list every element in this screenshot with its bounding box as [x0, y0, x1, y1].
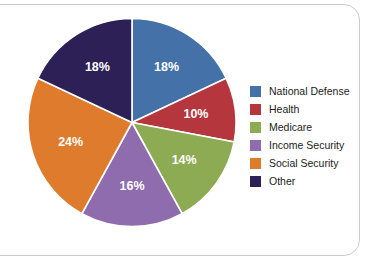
- legend-item[interactable]: Health: [250, 100, 375, 118]
- pie-slice-value-label: 14%: [172, 153, 197, 167]
- pie-graphic: 18%10%14%16%24%18%: [28, 18, 236, 227]
- legend-item[interactable]: Medicare: [250, 118, 375, 136]
- pie-slice-value-label: 18%: [154, 60, 179, 74]
- legend-item-label: Income Security: [269, 140, 344, 151]
- legend-item-label: Health: [269, 104, 299, 115]
- pie-svg: 18%10%14%16%24%18%: [28, 18, 236, 227]
- pie-slice-group: [28, 19, 236, 227]
- legend-item-label: Other: [269, 176, 295, 187]
- legend: National DefenseHealthMedicareIncome Sec…: [250, 82, 375, 190]
- legend-color-swatch: [250, 104, 261, 115]
- legend-color-swatch: [250, 122, 261, 133]
- pie-slice-value-label: 10%: [183, 107, 208, 121]
- legend-item[interactable]: Social Security: [250, 154, 375, 172]
- pie-slice-value-label: 18%: [85, 60, 110, 74]
- legend-item-label: National Defense: [269, 86, 350, 97]
- legend-color-swatch: [250, 158, 261, 169]
- legend-item-label: Social Security: [269, 158, 338, 169]
- legend-color-swatch: [250, 176, 261, 187]
- legend-item[interactable]: National Defense: [250, 82, 375, 100]
- pie-slice-value-label: 24%: [58, 135, 83, 149]
- legend-item[interactable]: Income Security: [250, 136, 375, 154]
- legend-item[interactable]: Other: [250, 172, 375, 190]
- legend-color-swatch: [250, 86, 261, 97]
- legend-item-label: Medicare: [269, 122, 312, 133]
- pie-slice-value-label: 16%: [119, 179, 144, 193]
- legend-color-swatch: [250, 140, 261, 151]
